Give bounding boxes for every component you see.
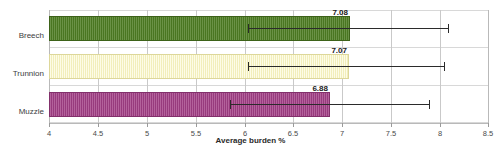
bar-chart: Breech Trunnion Muzzle 7.08 7.07 (0, 0, 501, 153)
errorbar-cap-high-breech (448, 24, 449, 33)
category-label-breech: Breech (19, 31, 44, 40)
tick-4.5 (98, 123, 99, 127)
category-label-muzzle: Muzzle (19, 107, 44, 116)
plot-area: 7.08 7.07 6.88 4 4.5 5 5.5 6 (49, 10, 489, 123)
tick-5.5 (196, 123, 197, 127)
x-axis-title: Average burden % (0, 136, 501, 145)
tick-5 (147, 123, 148, 127)
horizontal-gridline (49, 47, 489, 48)
value-label-muzzle: 6.88 (312, 84, 328, 93)
value-label-trunnion: 7.07 (331, 46, 347, 55)
category-axis: Breech Trunnion Muzzle (0, 10, 44, 123)
errorbar-cap-low-breech (248, 24, 249, 33)
errorbar-cap-low-trunnion (248, 62, 249, 71)
tick-6.5 (293, 123, 294, 127)
tick-8 (440, 123, 441, 127)
value-label-breech: 7.08 (332, 8, 348, 17)
errorbar-line-breech (248, 28, 448, 29)
tick-7 (342, 123, 343, 127)
errorbar-line-muzzle (230, 104, 429, 105)
errorbar-line-trunnion (248, 66, 444, 67)
axis-frame-right (488, 10, 489, 123)
errorbar-cap-high-muzzle (429, 100, 430, 109)
tick-4 (49, 123, 50, 127)
tick-8.5 (488, 123, 489, 127)
errorbar-cap-high-trunnion (444, 62, 445, 71)
category-label-trunnion: Trunnion (13, 69, 44, 78)
horizontal-gridline (49, 85, 489, 86)
x-axis-line (49, 123, 489, 124)
tick-6 (245, 123, 246, 127)
horizontal-gridline (49, 10, 489, 11)
errorbar-cap-low-muzzle (230, 100, 231, 109)
tick-7.5 (391, 123, 392, 127)
